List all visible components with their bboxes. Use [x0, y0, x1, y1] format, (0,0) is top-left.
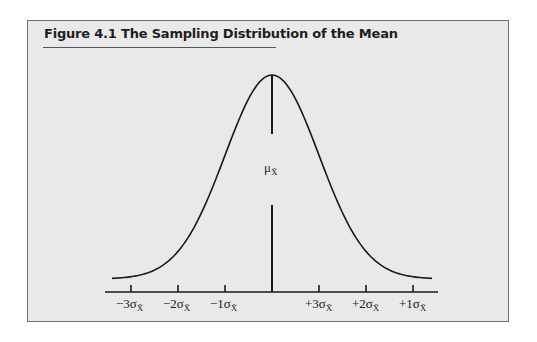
- distribution-plot: μX̄ −3σX̄ −2σX̄ −1σX̄ +3σX̄ +2σX̄ +1σX̄: [0, 0, 537, 342]
- tick-label-plus2: +2σX̄: [352, 296, 380, 313]
- tick-label-minus2: −2σX̄: [163, 296, 191, 313]
- tick-label-minus3: −3σX̄: [116, 296, 144, 313]
- tick-label-plus1: +1σX̄: [399, 296, 427, 313]
- tick-label-plus3: +3σX̄: [305, 296, 333, 313]
- tick-label-minus1: −1σX̄: [210, 296, 238, 313]
- mean-label: μX̄: [264, 160, 278, 177]
